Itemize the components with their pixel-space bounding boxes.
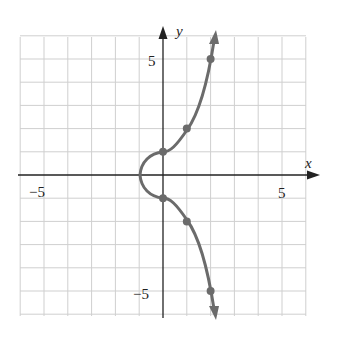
data-point (207, 287, 215, 295)
data-point (183, 217, 191, 225)
data-point (183, 125, 191, 133)
graph: x y −5 5 5 −5 (0, 0, 337, 337)
data-point (207, 55, 215, 63)
y-axis-arrow-icon (159, 26, 168, 39)
x-axis-label: x (304, 155, 312, 171)
y-tick-label-5: 5 (148, 53, 156, 69)
y-tick-label-neg5: −5 (133, 286, 149, 302)
y-axis-label: y (174, 23, 183, 39)
x-axis (18, 171, 320, 180)
data-point (159, 194, 167, 202)
x-tick-label-neg5: −5 (29, 184, 45, 200)
data-point (159, 148, 167, 156)
y-axis (159, 26, 168, 318)
x-tick-label-5: 5 (278, 185, 286, 201)
x-axis-arrow-icon (307, 171, 320, 180)
